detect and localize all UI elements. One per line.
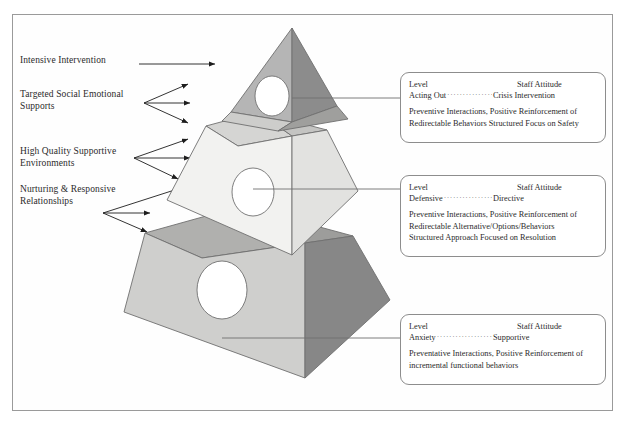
body-line: Preventative Interactions, Positive Rein… [409,348,597,359]
arrow-targeted-up [144,84,188,103]
info-box-defensive: Level Staff Attitude Defensive ·········… [400,175,606,257]
row-attitude-value: Directive [493,193,597,204]
label-high-quality-supportive-environments: High Quality Supportive Environments [20,145,116,169]
header-attitude-label: Staff Attitude [517,79,562,90]
body-line: Redirectable Alternative/Options/Behavio… [409,221,597,232]
row-attitude-value: Crisis Intervention [493,90,597,101]
info-box-anxiety-row: Anxiety ································… [409,332,597,344]
leader-dots: ······································ [444,192,492,203]
body-line: Preventive Interactions, Positive Reinfo… [409,209,597,220]
middle-tier-circle [232,168,274,216]
body-line: Structured Approach Focused on Resolutio… [409,232,597,243]
row-level-value: Acting Out [409,90,446,101]
info-box-acting-out: Level Staff Attitude Acting Out ········… [400,72,606,143]
pyramid-top-tier [222,28,348,131]
leader-dots: ······································ [437,331,492,342]
body-line: Preventive Interactions, Positive Reinfo… [409,106,597,117]
arrow-targeted-down [144,103,188,123]
info-box-acting-out-body: Preventive Interactions, Positive Reinfo… [409,106,597,129]
info-box-acting-out-row: Acting Out ·····························… [409,90,597,102]
info-box-anxiety: Level Staff Attitude Anxiety ···········… [400,314,606,385]
arrow-nurturing-down [103,213,147,232]
arrow-group-targeted-supports [144,84,190,123]
label-nurturing-responsive-relationships: Nurturing & Responsive Relationships [20,183,116,207]
base-tier-right-face [305,236,390,378]
info-box-anxiety-body: Preventative Interactions, Positive Rein… [409,348,597,371]
label-intensive-intervention: Intensive Intervention [20,54,106,66]
row-attitude-value: Supportive [493,332,597,343]
arrow-hqse-up [134,139,188,158]
leader-dots: ······································ [447,89,492,100]
body-line: incremental functional behaviors [409,360,597,371]
base-tier-circle [197,261,247,319]
info-box-acting-out-header: Level Staff Attitude [409,79,597,90]
label-targeted-social-emotional-supports: Targeted Social Emotional Supports [20,88,124,112]
body-line: Redirectable Behaviors Structured Focus … [409,118,597,129]
top-tier-right-face [292,28,337,122]
header-attitude-label: Staff Attitude [517,182,562,193]
row-level-value: Anxiety [409,332,436,343]
info-box-defensive-header: Level Staff Attitude [409,182,597,193]
header-attitude-label: Staff Attitude [517,321,562,332]
diagram-page: Intensive Intervention Targeted Social E… [0,0,627,428]
row-level-value: Defensive [409,193,443,204]
info-box-defensive-row: Defensive ······························… [409,193,597,205]
top-tier-circle [255,76,289,116]
info-box-defensive-body: Preventive Interactions, Positive Reinfo… [409,209,597,243]
arrow-hqse-down [134,158,178,179]
